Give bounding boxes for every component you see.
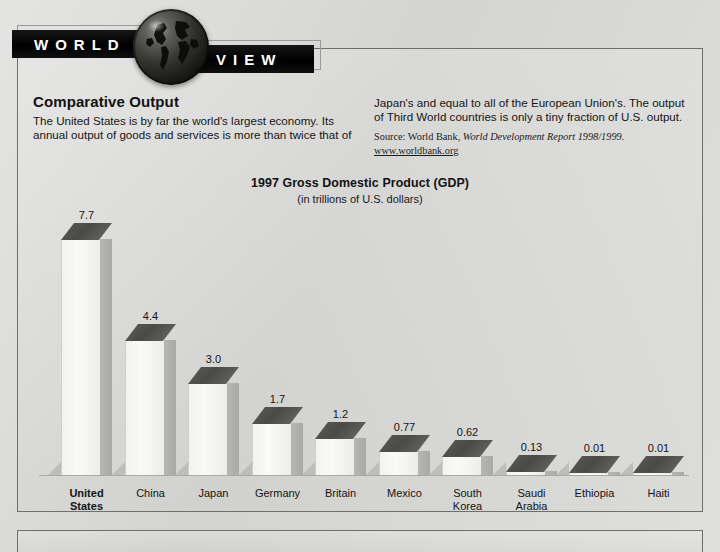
bar-value-label: 3.0 [182,353,245,365]
bar-category-line: States [47,500,126,513]
bar-japan [188,383,226,475]
bar-side-face [290,423,303,475]
bar-top-face [125,324,176,341]
bar-base-shadow [48,462,61,475]
bar-value-label: 7.7 [55,209,118,221]
bar-top-face [61,223,112,240]
bar-value-label: 0.01 [563,442,626,454]
bar-value-label: 0.62 [436,426,499,438]
bar-base-shadow [429,462,442,475]
bar-side-face [417,451,430,475]
bar-base-shadow [366,462,379,475]
bar-base-shadow [239,462,252,475]
bar-south-korea [442,456,480,475]
bar-category-line: Arabia [492,500,571,513]
bar-front-face [252,423,291,475]
bar-front-face [125,340,164,475]
bar-britain [315,438,353,475]
bar-top-face [188,367,239,384]
bar-side-face [480,456,493,475]
bar-side-face [163,340,176,475]
bar-front-face [442,456,481,475]
chart-plot-area: 7.7UnitedStates4.4China3.0Japan1.7German… [17,48,703,512]
bar-united-states [61,239,99,475]
bar-side-face [99,239,112,475]
bar-value-label: 4.4 [119,310,182,322]
bar-top-face [569,456,620,473]
bar-value-label: 0.13 [500,441,563,453]
bar-top-face [252,407,303,424]
bar-base-shadow [493,462,506,475]
bar-top-face [506,455,557,472]
bar-side-face [226,383,239,475]
bar-value-label: 0.01 [627,442,690,454]
bar-category-label: Haiti [619,487,698,500]
bar-value-label: 0.77 [373,421,436,433]
bar-front-face [188,383,227,475]
bar-haiti [633,472,671,475]
bar-germany [252,423,290,475]
bar-side-face [353,438,366,475]
bar-base-shadow [620,462,633,475]
bar-china [125,340,163,475]
bar-value-label: 1.7 [246,393,309,405]
bar-top-face [379,435,430,452]
bar-base-shadow [175,462,188,475]
next-panel [17,530,703,552]
gdp-chart: 1997 Gross Domestic Product (GDP) (in tr… [17,48,703,512]
bar-value-label: 1.2 [309,408,372,420]
bar-top-face [315,422,366,439]
bar-front-face [61,239,100,475]
bar-ethiopia [569,472,607,475]
bar-saudi-arabia [506,471,544,475]
bar-front-face [315,438,354,475]
bar-side-face [671,472,684,475]
bar-base-shadow [556,462,569,475]
bar-top-face [633,456,684,473]
bar-mexico [379,451,417,475]
bar-base-shadow [302,462,315,475]
bar-base-shadow [112,462,125,475]
bar-front-face [379,451,418,475]
bar-top-face [442,440,493,457]
bar-side-face [544,471,557,475]
globe-highlight [148,20,165,32]
bar-category-line: Haiti [619,487,698,500]
bar-side-face [607,472,620,475]
